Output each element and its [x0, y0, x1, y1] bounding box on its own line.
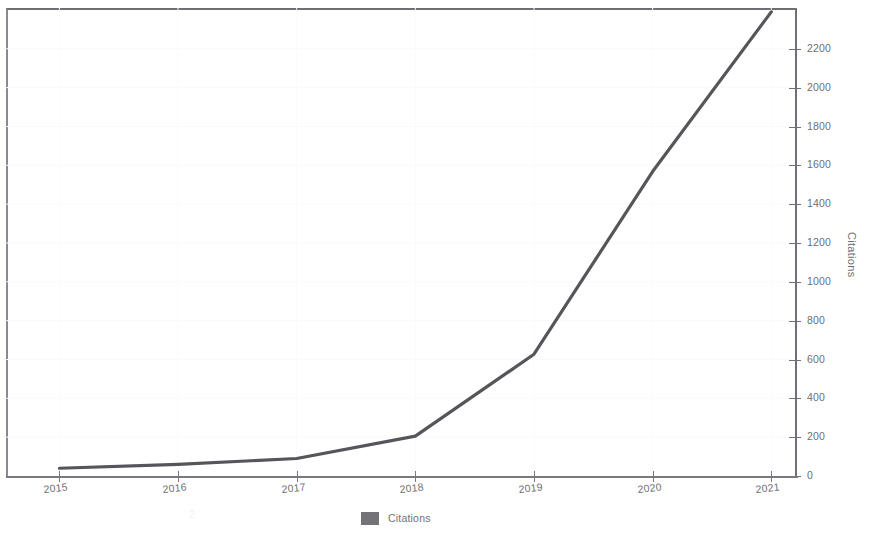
y-axis-tick [789, 398, 801, 399]
y-axis-tick [789, 360, 801, 361]
citations-line-chart: 0200400600800100012001400160018002000220… [0, 0, 892, 533]
plot-area [0, 0, 892, 533]
legend: Citations [361, 512, 431, 525]
x-axis-line [6, 476, 798, 478]
y-axis-tick-label: 800 [807, 315, 825, 325]
y-axis-tick-label: 2000 [807, 82, 831, 92]
y-axis-tick-label: 0 [807, 470, 813, 480]
y-axis-tick [789, 49, 801, 50]
y-axis-tick [789, 321, 801, 322]
y-axis-tick [789, 437, 801, 438]
y-axis-tick [789, 88, 801, 89]
faint-artifact: 2 [189, 508, 195, 520]
y-axis-tick [789, 127, 801, 128]
y-axis-tick-label: 600 [807, 354, 825, 364]
y-axis-tick-label: 1400 [807, 198, 831, 208]
gridlines [6, 8, 795, 476]
y-axis-tick-label: 200 [807, 431, 825, 441]
y-axis-tick-label: 1800 [807, 121, 831, 131]
y-axis-tick [789, 204, 801, 205]
y-axis-tick-label: 400 [807, 392, 825, 402]
legend-swatch-citations [361, 512, 379, 525]
y-axis-tick-label: 1000 [807, 276, 831, 286]
y-axis-tick [789, 165, 801, 166]
y-axis-title: Citations [846, 232, 858, 278]
y-axis-tick-label: 1600 [807, 159, 831, 169]
y-axis-tick-label: 1200 [807, 237, 831, 247]
y-axis-tick [789, 243, 801, 244]
legend-label-citations: Citations [388, 513, 431, 524]
y-axis-tick [789, 282, 801, 283]
y-axis-tick-label: 2200 [807, 43, 831, 53]
